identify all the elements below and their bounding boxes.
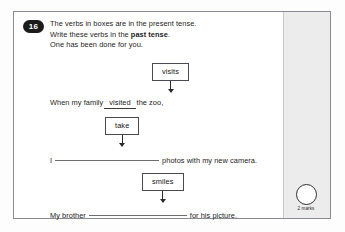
down-arrow-icon-3: [162, 191, 163, 202]
worksheet-page: 16 The verbs in boxes are in the present…: [0, 0, 345, 232]
sentence-2-before: I: [50, 156, 52, 165]
sentence-row-2: Iphotos with my new camera.: [50, 156, 257, 165]
instruction-line-3: One has been done for you.: [50, 40, 280, 51]
sentence-3-after: for his picture.: [190, 211, 237, 220]
verb-box-visits: visits: [152, 63, 189, 81]
answer-field-3[interactable]: [89, 215, 187, 216]
sentence-row-1: When my familyvisitedthe zoo,: [50, 98, 163, 109]
sentence-2-after: photos with my new camera.: [162, 156, 257, 165]
sentence-3-before: My brother: [50, 211, 86, 220]
down-arrow-icon-2: [122, 135, 123, 146]
instruction-line-2-post: .: [168, 30, 170, 39]
question-number-badge: 16: [23, 20, 44, 33]
sentence-row-3: My brotherfor his picture.: [50, 211, 237, 220]
instruction-line-1: The verbs in boxes are in the present te…: [50, 19, 280, 30]
instruction-line-2: Write these verbs in the past tense.: [50, 30, 280, 41]
verb-group-3: smiles: [142, 173, 184, 202]
verb-box-smiles: smiles: [142, 173, 184, 191]
verb-group-1: visits: [152, 63, 189, 92]
down-arrow-icon-1: [170, 81, 171, 92]
answer-field-2[interactable]: [55, 160, 159, 161]
question-frame: 16 The verbs in boxes are in the present…: [13, 11, 331, 219]
question-content: The verbs in boxes are in the present te…: [50, 19, 280, 214]
sentence-1-after: the zoo,: [137, 98, 164, 107]
instruction-line-2-pre: Write these verbs in the: [50, 30, 131, 39]
verb-group-2: take: [105, 117, 139, 146]
sentence-1-before: When my family: [50, 98, 103, 107]
verb-box-take: take: [105, 117, 139, 135]
answer-field-1[interactable]: visited: [104, 98, 135, 109]
mark-circle-icon[interactable]: [296, 184, 317, 205]
marks-label: 2 marks: [290, 206, 322, 212]
instruction-line-2-emphasis: past tense: [131, 30, 168, 39]
marks-box: 2 marks: [290, 184, 322, 212]
